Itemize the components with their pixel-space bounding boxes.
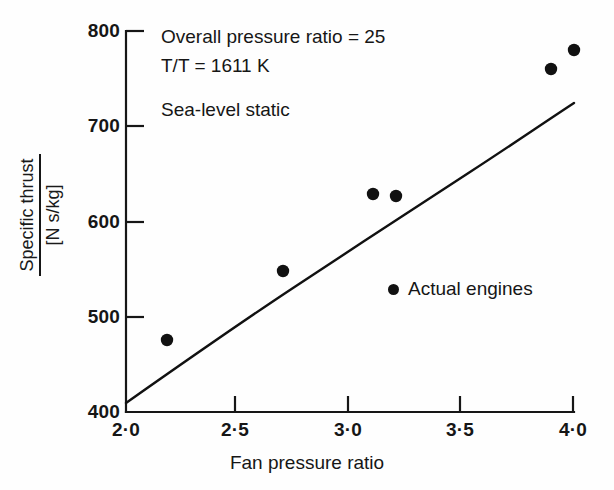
data-point [161, 334, 173, 346]
tet-value: = 1611 K [189, 55, 269, 76]
data-point [545, 63, 557, 75]
x-tick-label-3-5: 3·5 [430, 419, 490, 441]
annotation-overall-pressure-ratio: Overall pressure ratio = 25 [161, 26, 385, 48]
annotation-turbine-entry-temperature: T/T = 1611 K [161, 55, 270, 77]
y-axis-title-denominator: [N s/kg] [41, 185, 63, 246]
y-tick-label-800: 800 [64, 20, 120, 42]
trend-curve [126, 103, 574, 403]
x-tick-label-2-5: 2·5 [205, 419, 265, 441]
chart-figure: 800 700 600 500 400 2·0 2·5 3·0 3·5 4·0 … [0, 0, 614, 490]
x-axis-ticks [235, 396, 573, 412]
data-point [367, 188, 379, 200]
x-tick-label-4-0: 4·0 [543, 419, 603, 441]
legend-actual-engines: Actual engines [388, 278, 533, 300]
legend-label: Actual engines [408, 278, 533, 300]
tet-symbol: T/T [161, 55, 189, 76]
legend-marker-icon [388, 284, 399, 295]
data-point [568, 44, 580, 56]
data-point [390, 190, 402, 202]
y-axis-title: Specific thrust [N s/kg] [0, 115, 80, 315]
y-axis-title-numerator: Specific thrust [17, 154, 40, 275]
data-point [277, 265, 289, 277]
x-axis-title: Fan pressure ratio [0, 452, 614, 474]
y-axis-ticks [126, 31, 144, 317]
x-tick-label-2-0: 2·0 [96, 419, 156, 441]
data-points-actual-engines [161, 44, 580, 346]
annotation-sea-level-static: Sea-level static [161, 99, 290, 121]
x-tick-label-3-0: 3·0 [318, 419, 378, 441]
